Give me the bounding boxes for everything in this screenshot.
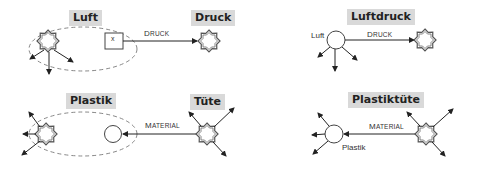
x-box-text: x — [111, 35, 115, 42]
head-label-luft: Luft — [69, 10, 102, 26]
star-node-icon — [37, 30, 59, 52]
node-label-plastik: Plastik — [342, 143, 366, 152]
edge-label-material: MATERIAL — [145, 121, 180, 130]
tail-label-tuete: Tüte — [190, 94, 225, 110]
edge-label-material: MATERIAL — [369, 122, 404, 131]
panel-bottom-left — [22, 108, 234, 156]
circle-node — [327, 31, 345, 49]
compound-label-plastiktuete: Plastiktüte — [348, 92, 424, 108]
circle-node — [105, 126, 122, 143]
panel-bottom-right — [312, 109, 453, 156]
head-label-plastik: Plastik — [66, 93, 116, 109]
tail-label-druck: Druck — [191, 10, 235, 26]
circle-node — [325, 125, 343, 143]
edge-label-druck: DRUCK — [144, 29, 169, 38]
node-label-luft: Luft — [311, 31, 324, 40]
star-node-icon — [414, 29, 436, 51]
edge-label-druck: DRUCK — [367, 30, 392, 39]
star-node-icon — [198, 30, 220, 52]
panel-top-left — [29, 27, 220, 74]
compound-label-luftdruck: Luftdruck — [347, 9, 415, 25]
